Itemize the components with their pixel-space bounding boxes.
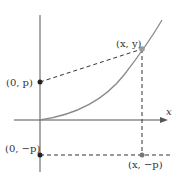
label-x-minus-p: (x, −p) [128,159,163,170]
parabola-curve [40,20,162,120]
label-x-y: (x, y) [116,38,142,49]
label-0-minus-p: (0, −p) [5,143,40,154]
dashed-line-focus-to-point [40,49,142,82]
point-x-minus-p [140,153,145,158]
x-axis-arrow-icon [160,117,168,123]
label-0-p: (0, p) [6,77,33,88]
point-0-p [38,80,43,85]
x-axis-label: x [166,106,172,117]
parabola-focus-directrix-diagram: x (x, y) (0, p) (0, −p) (x, −p) [0,0,178,180]
